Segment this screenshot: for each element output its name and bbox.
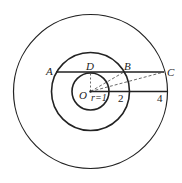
label-D: D xyxy=(85,60,94,72)
label-C: C xyxy=(167,66,175,78)
segment-OC xyxy=(91,72,165,92)
label-O: O xyxy=(79,89,87,101)
label-4: 4 xyxy=(157,92,163,104)
label-radius: r=1 xyxy=(91,92,107,103)
label-2: 2 xyxy=(118,92,124,104)
label-B: B xyxy=(124,60,131,72)
concentric-circles-diagram: A D B C O r=1 2 4 xyxy=(0,0,182,183)
segment-OB xyxy=(91,72,125,92)
label-A: A xyxy=(45,65,53,77)
